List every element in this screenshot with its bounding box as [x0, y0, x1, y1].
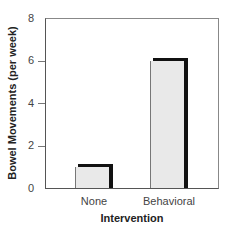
y-tick-label-2: 2: [4, 140, 34, 151]
plot-area: [45, 18, 219, 189]
y-tick-label-0: 0: [4, 183, 34, 194]
x-category-behavioral: Behavioral: [139, 195, 199, 207]
y-tick-4: [38, 103, 45, 104]
y-tick-label-8: 8: [4, 13, 34, 24]
bar-behavioral: [150, 61, 184, 188]
y-tick-2: [38, 146, 45, 147]
bar-shadow: [153, 58, 188, 61]
bar-shadow: [184, 58, 188, 188]
x-category-none: None: [64, 195, 124, 207]
bar-none: [75, 167, 109, 188]
y-tick-label-4: 4: [4, 98, 34, 109]
x-axis-label: Intervention: [45, 212, 219, 224]
bar-shadow: [78, 164, 113, 167]
bar-shadow: [109, 164, 113, 188]
y-tick-label-6: 6: [4, 55, 34, 66]
y-tick-6: [38, 61, 45, 62]
